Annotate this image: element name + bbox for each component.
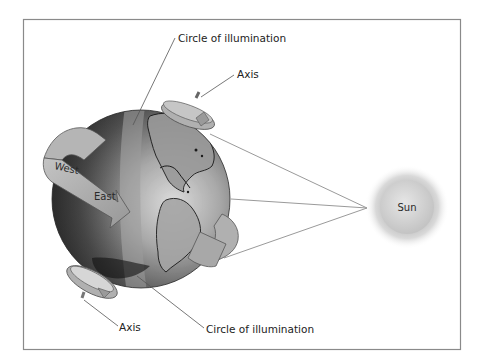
label-axis-top: Axis	[237, 68, 259, 80]
east-label: East	[94, 191, 116, 202]
diagram-canvas: Sun West	[0, 0, 481, 358]
label-axis-bottom: Axis	[119, 321, 141, 333]
axis-pin-bottom	[82, 292, 84, 298]
sun: Sun	[365, 165, 449, 249]
sun-label: Sun	[397, 202, 416, 213]
label-circle-of-illumination-bottom: Circle of illumination	[206, 323, 314, 335]
label-circle-of-illumination-top: Circle of illumination	[178, 32, 286, 44]
